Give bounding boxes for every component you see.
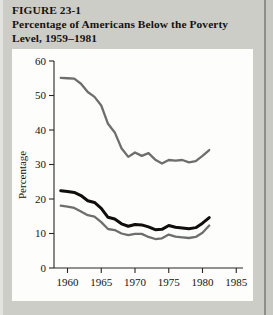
middle-black-line bbox=[61, 191, 210, 230]
figure-caption: FIGURE 23-1 Percentage of Americans Belo… bbox=[12, 3, 250, 46]
figure-title-line-1: Percentage of Americans Below the Povert… bbox=[12, 17, 250, 31]
x-tick-label: 1965 bbox=[90, 276, 113, 288]
y-tick-label: 30 bbox=[35, 158, 47, 170]
lower-gray-line bbox=[61, 206, 210, 239]
x-tick-label: 1985 bbox=[225, 276, 248, 288]
figure-card: FIGURE 23-1 Percentage of Americans Belo… bbox=[0, 0, 266, 315]
y-tick-label: 50 bbox=[35, 89, 47, 101]
chart-panel: Percentage 0102030405060 196019651970197… bbox=[12, 49, 253, 301]
upper-gray-line bbox=[61, 78, 210, 164]
x-tick-label: 1980 bbox=[192, 276, 215, 288]
y-tick-label: 20 bbox=[35, 193, 47, 205]
series-group bbox=[61, 78, 210, 239]
x-tick-label: 1960 bbox=[57, 276, 80, 288]
line-chart: Percentage 0102030405060 196019651970197… bbox=[12, 49, 253, 301]
x-tick-label: 1970 bbox=[124, 276, 147, 288]
y-tick-label: 10 bbox=[35, 227, 47, 239]
x-axis-ticks: 196019651970197519801985 bbox=[57, 268, 248, 288]
figure-title-line-2: Level, 1959–1981 bbox=[12, 31, 250, 45]
x-tick-label: 1975 bbox=[158, 276, 181, 288]
y-axis-title-label: Percentage bbox=[16, 151, 28, 199]
y-tick-label: 60 bbox=[35, 55, 47, 67]
y-axis-ticks: 0102030405060 bbox=[35, 55, 54, 274]
y-tick-label: 40 bbox=[35, 124, 47, 136]
figure-number: FIGURE 23-1 bbox=[12, 3, 250, 17]
y-tick-label: 0 bbox=[41, 262, 47, 274]
y-axis-title: Percentage bbox=[16, 151, 28, 199]
